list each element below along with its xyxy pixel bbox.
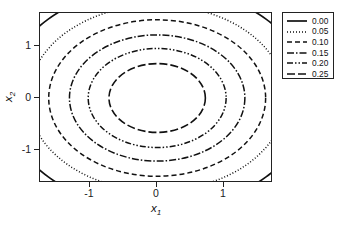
x-tick-label-1: 0 bbox=[153, 188, 159, 199]
legend-label-0.20: 0.20 bbox=[312, 59, 328, 67]
y-axis-title-sub: 2 bbox=[8, 92, 17, 96]
contour-line-0.15 bbox=[69, 35, 244, 161]
legend-line-swatch-dash-dot-dot bbox=[286, 58, 308, 68]
contour-line-0.00 bbox=[40, 13, 272, 182]
legend-line-swatch-dotted bbox=[286, 27, 308, 37]
contour-plot-figure: -1 0 1 x1 1 0 -1 x2 0.000.050.100.150.20… bbox=[0, 0, 345, 225]
contour-line-0.10 bbox=[49, 20, 266, 176]
y-tick-mark-1 bbox=[34, 97, 39, 98]
contour-line-0.05 bbox=[40, 13, 272, 182]
legend-item-0.15[interactable]: 0.15 bbox=[286, 48, 330, 58]
plot-area bbox=[39, 12, 272, 182]
legend-item-0.10[interactable]: 0.10 bbox=[286, 37, 330, 47]
legend-item-0.20[interactable]: 0.20 bbox=[286, 58, 330, 68]
x-tick-label-0: -1 bbox=[84, 188, 93, 199]
contour-lines-group bbox=[40, 13, 272, 182]
x-axis-title-sub: 1 bbox=[157, 208, 161, 217]
legend-line-swatch-solid bbox=[286, 16, 308, 26]
x-axis-title: x1 bbox=[151, 203, 161, 217]
legend-label-0.10: 0.10 bbox=[312, 38, 328, 46]
legend-line-swatch-dash-dot bbox=[286, 48, 308, 58]
y-tick-label-1: 0 bbox=[25, 92, 31, 103]
legend-line-swatch-dashed bbox=[286, 37, 308, 47]
y-tick-mark-2 bbox=[34, 149, 39, 150]
contour-line-0.25 bbox=[109, 64, 205, 133]
legend-item-0.25[interactable]: 0.25 bbox=[286, 69, 330, 79]
y-axis-title: x2 bbox=[3, 92, 17, 102]
y-tick-label-0: 1 bbox=[25, 40, 31, 51]
legend-item-0.05[interactable]: 0.05 bbox=[286, 27, 330, 37]
y-tick-mark-0 bbox=[34, 45, 39, 46]
y-axis-title-base: x bbox=[2, 96, 14, 102]
legend-label-0.05: 0.05 bbox=[312, 27, 328, 35]
legend-label-0.15: 0.15 bbox=[312, 49, 328, 57]
legend-item-0.00[interactable]: 0.00 bbox=[286, 16, 330, 26]
legend-label-0.00: 0.00 bbox=[312, 17, 328, 25]
legend-label-0.25: 0.25 bbox=[312, 70, 328, 78]
contour-legend: 0.000.050.100.150.200.25 bbox=[282, 12, 334, 79]
x-tick-label-2: 1 bbox=[220, 188, 226, 199]
y-tick-label-2: -1 bbox=[22, 144, 31, 155]
legend-line-swatch-long-dash bbox=[286, 69, 308, 79]
